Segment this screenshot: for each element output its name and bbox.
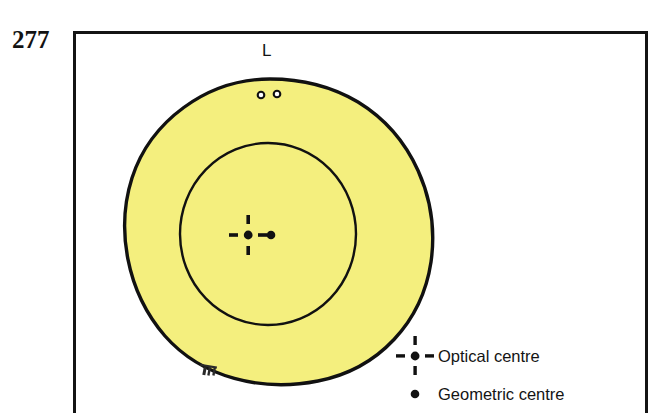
page-number: 277: [12, 27, 50, 52]
figure-page: 277: [0, 0, 669, 413]
dot-icon: [400, 381, 438, 407]
lens-label: L: [262, 42, 271, 59]
legend-item-geometric-centre: Geometric centre: [400, 381, 565, 407]
legend-item-optical-centre: Optical centre: [400, 343, 540, 369]
legend-label-optical-centre: Optical centre: [438, 347, 540, 365]
legend-label-geometric-centre: Geometric centre: [438, 385, 565, 403]
crosshair-icon: [400, 343, 438, 369]
figure-frame: [73, 31, 648, 413]
